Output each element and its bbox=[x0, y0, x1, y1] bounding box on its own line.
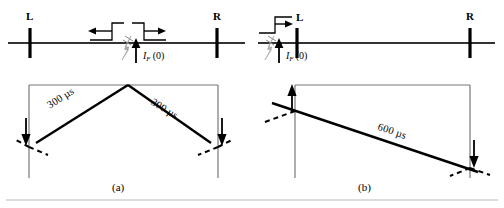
right-terminal-arrow-b bbox=[469, 140, 478, 168]
right-terminal-arrow-a bbox=[217, 118, 226, 146]
wave-front-b bbox=[272, 103, 478, 172]
fault-current-argument-a: (0) bbox=[153, 50, 165, 61]
reflection-dashes-right-a bbox=[198, 140, 232, 155]
reflection-dashes-left-b bbox=[265, 111, 295, 122]
panel-caption-b: (b) bbox=[358, 181, 371, 193]
left-traveling-wave-arrow-a bbox=[88, 23, 124, 40]
panel-a-line-diagram bbox=[8, 23, 245, 63]
reflection-dashes-left-a bbox=[16, 140, 48, 155]
fault-current-argument-b: (0) bbox=[296, 50, 308, 61]
fault-current-label-a: IF(0) bbox=[143, 50, 164, 63]
fault-current-label-b: IF(0) bbox=[286, 50, 307, 63]
bus-label-right-b: R bbox=[466, 10, 474, 22]
panel-caption-a: (a) bbox=[112, 181, 124, 193]
fault-lightning-icon-a bbox=[122, 36, 133, 60]
fault-current-subscript-b: F bbox=[289, 55, 293, 63]
fault-current-arrow-b bbox=[275, 38, 284, 63]
fault-current-subscript-a: F bbox=[146, 55, 150, 63]
fault-lightning-icon-b bbox=[265, 36, 276, 60]
fault-current-arrow-a bbox=[132, 38, 141, 63]
right-traveling-wave-arrow-b bbox=[259, 17, 293, 33]
bus-label-left-b: L bbox=[296, 11, 303, 23]
right-traveling-wave-arrow-a bbox=[132, 23, 166, 40]
wave-front-left-a bbox=[36, 85, 128, 143]
figure-canvas bbox=[0, 0, 504, 208]
bus-label-left-a: L bbox=[26, 10, 33, 22]
bus-label-right-a: R bbox=[213, 10, 221, 22]
